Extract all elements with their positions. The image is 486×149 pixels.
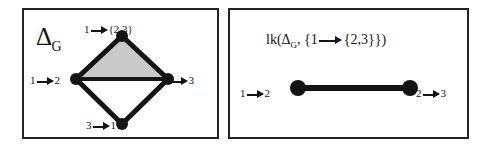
link-vertex-label-left: 12 <box>240 88 270 99</box>
link-open-brace: { <box>304 32 311 47</box>
vertex-label-bottom-target: 1 <box>111 119 117 131</box>
link-comma: , <box>297 32 301 47</box>
panel-delta-g: ΔG 1{2,3} 12 23 <box>22 8 219 139</box>
delta-subscript-g: G <box>51 39 61 54</box>
delta-symbol: Δ <box>36 23 52 50</box>
vertex-label-left: 12 <box>30 75 60 86</box>
link-arg-source: 1 <box>311 32 318 47</box>
arrow-right-icon <box>91 26 108 35</box>
link-formula: lk(ΔG, {1{2,3}}) <box>266 33 386 50</box>
unfilled-face-bottom <box>76 79 168 124</box>
link-arg-target: {2,3} <box>344 32 375 47</box>
link-close-brace: } <box>375 32 382 47</box>
vertex-label-left-target: 2 <box>55 74 61 86</box>
arrow-right-icon <box>319 36 343 45</box>
vertex-label-top-target: {2,3} <box>109 23 133 35</box>
vertex-left <box>290 80 306 96</box>
link-vertex-label-left-target: 2 <box>265 87 271 99</box>
vertex-bottom <box>116 118 128 130</box>
vertex-label-bottom-source: 3 <box>86 119 92 131</box>
simplicial-complex-diamond <box>68 24 176 134</box>
arrow-right-icon <box>93 122 110 131</box>
panel-link: lk(ΔG, {1{2,3}}) 12 23 <box>228 8 469 139</box>
link-vertex-label-right: 23 <box>416 88 446 99</box>
link-delta-symbol: Δ <box>282 32 291 47</box>
vertex-label-right-target: 3 <box>189 74 195 86</box>
vertex-label-bottom: 31 <box>86 120 116 131</box>
simplicial-complex-edge <box>268 68 434 110</box>
vertex-label-top: 1{2,3} <box>84 24 133 35</box>
arrow-right-icon <box>37 77 54 86</box>
link-vertex-label-right-target: 3 <box>441 87 447 99</box>
vertex-label-right: 23 <box>164 75 194 86</box>
figure-root: ΔG 1{2,3} 12 23 <box>0 0 486 149</box>
link-vertex-label-right-source: 2 <box>416 87 422 99</box>
panel-link-content: lk(ΔG, {1{2,3}}) 12 23 <box>230 10 467 137</box>
arrow-right-icon <box>171 77 188 86</box>
vertex-left <box>70 73 82 85</box>
link-close-paren: ) <box>382 32 387 47</box>
panel-delta-g-content: ΔG 1{2,3} 12 23 <box>24 10 217 137</box>
delta-g-heading: ΔG <box>36 24 62 54</box>
vertex-label-right-source: 2 <box>164 74 170 86</box>
vertex-label-top-source: 1 <box>84 23 90 35</box>
link-vertex-label-left-source: 1 <box>240 87 246 99</box>
arrow-right-icon <box>423 90 440 99</box>
link-function-name: lk <box>266 32 277 47</box>
shaded-face-top <box>76 36 168 79</box>
arrow-right-icon <box>247 90 264 99</box>
vertex-label-left-source: 1 <box>30 74 36 86</box>
